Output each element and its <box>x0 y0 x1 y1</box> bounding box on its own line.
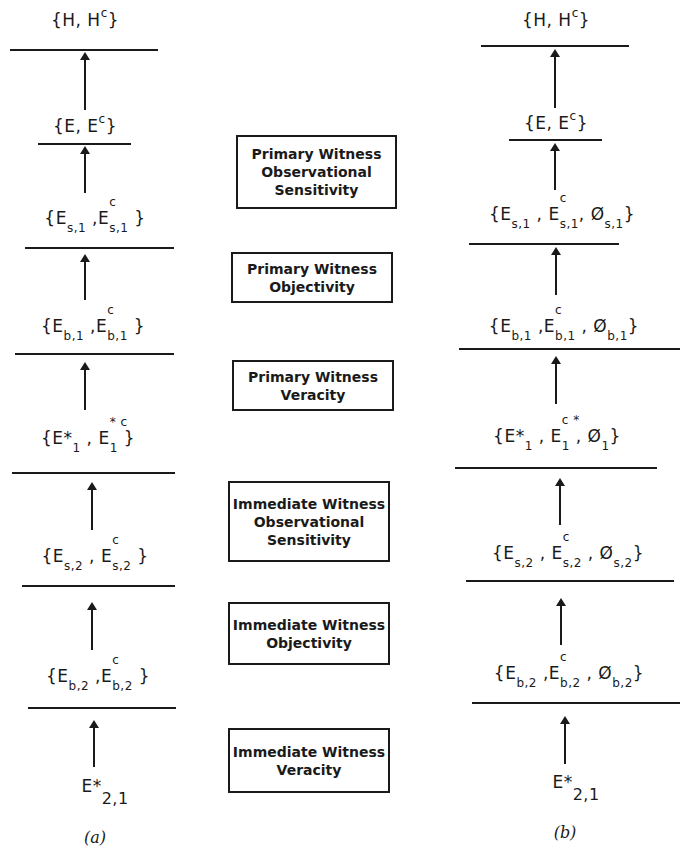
box-line: Observational <box>238 163 395 181</box>
node-text: ,E <box>532 316 555 336</box>
node-sub: 1 <box>110 442 118 454</box>
level-line <box>15 353 174 355</box>
node-root-b: E*2,1 <box>552 774 599 795</box>
node-text: , E <box>81 428 110 448</box>
node-sup: c <box>560 192 567 204</box>
box-primary-objectivity: Primary Witness Objectivity <box>231 252 393 303</box>
node-text: , Ø <box>582 543 614 563</box>
caption-b: (b) <box>554 823 577 842</box>
node-sub: s,2 <box>112 560 131 572</box>
sub-sup-stack: cs,2 <box>563 545 582 569</box>
level-line <box>509 139 602 141</box>
node-sub: s,2 <box>563 557 582 569</box>
node-text: , E <box>534 543 563 563</box>
box-line: Primary Witness <box>233 260 391 278</box>
node-text: { <box>492 543 503 563</box>
node-sensory-2-b: {Es,2 , Ecs,2 , Øs,2} <box>492 545 644 569</box>
node-sub: s,1 <box>605 217 624 231</box>
node-sub: b,2 <box>516 676 537 690</box>
node-sub: b,1 <box>555 330 576 342</box>
box-line: Veracity <box>234 386 392 404</box>
node-sub: b,2 <box>69 679 90 693</box>
node-text: {E, E <box>524 113 570 133</box>
node-sup: c <box>560 651 567 663</box>
node-text: , Ø <box>581 663 613 683</box>
sub-sup-stack: cb,2 <box>112 668 133 692</box>
node-text: { <box>41 546 52 566</box>
node-sub: 1 <box>525 439 533 453</box>
node-text: , E <box>83 546 112 566</box>
node-text: E <box>500 204 511 224</box>
node-text: } <box>118 428 135 448</box>
box-line: Sensitivity <box>230 531 388 549</box>
node-text: E <box>505 663 516 683</box>
node-sensory-1-b: {Es,1 , Ecs,1, Øs,1} <box>489 206 635 230</box>
node-hypothesis-b: {H, Hc} <box>522 12 590 29</box>
box-immediate-veracity: Immediate Witness Veracity <box>228 728 390 793</box>
node-text: } <box>628 316 639 336</box>
node-text: , E <box>531 204 560 224</box>
node-text: { <box>493 426 504 446</box>
node-text: } <box>577 113 588 133</box>
node-sub: 2,1 <box>102 789 129 808</box>
box-line: Objectivity <box>230 634 388 652</box>
node-sub: s,1 <box>511 217 530 231</box>
node-sub: 1 <box>562 440 570 452</box>
node-text: E* <box>52 428 72 448</box>
node-text: ,E <box>89 666 112 686</box>
node-text: ,E <box>84 316 107 336</box>
node-sup: c <box>563 531 570 543</box>
node-sensory-1-a: {Es,1 ,Ecs,1 } <box>44 210 145 234</box>
box-line: Observational <box>230 513 388 531</box>
arrow-up-icon <box>93 726 95 767</box>
box-line: Immediate Witness <box>230 495 388 513</box>
node-sub: 1 <box>73 441 81 455</box>
node-text: } <box>128 208 145 228</box>
node-hypothesis-a: {H, Hc} <box>51 12 119 29</box>
node-event-b: {E, Ec} <box>524 115 588 132</box>
node-text: } <box>131 546 148 566</box>
node-text: } <box>133 666 150 686</box>
node-testimony-1-a: {E*1 , E* c1 } <box>41 430 135 454</box>
node-text: E* <box>504 426 524 446</box>
node-text: E* <box>81 776 101 796</box>
node-sub: b,1 <box>107 330 128 342</box>
node-sub: 1 <box>601 439 609 453</box>
node-sub: b,1 <box>607 329 628 343</box>
node-root-a: E*2,1 <box>81 778 128 799</box>
sub-sup-stack: cb,1 <box>555 318 576 342</box>
node-text: { <box>494 663 505 683</box>
level-line <box>455 467 657 469</box>
node-text: { <box>44 208 55 228</box>
node-text: { <box>46 666 57 686</box>
node-sub: b,1 <box>64 329 85 343</box>
node-text: { <box>489 316 500 336</box>
node-text: E <box>53 546 64 566</box>
node-text: { <box>41 428 52 448</box>
node-text: , Ø <box>576 316 608 336</box>
node-belief-1-a: {Eb,1 ,Ecb,1 } <box>41 318 145 342</box>
box-primary-observational-sensitivity: Primary Witness Observational Sensitivit… <box>236 135 397 209</box>
box-line: Sensitivity <box>238 181 395 199</box>
arrow-up-icon <box>91 488 93 530</box>
node-text: E <box>52 316 63 336</box>
sub-sup-stack: c *1 <box>562 428 570 452</box>
node-belief-1-b: {Eb,1 ,Ecb,1 , Øb,1} <box>489 318 639 342</box>
node-text: E <box>500 316 511 336</box>
node-text: } <box>624 204 635 224</box>
node-sup: c <box>107 304 114 316</box>
node-sub: s,2 <box>614 556 633 570</box>
node-sup: c <box>101 6 108 20</box>
node-belief-2-a: {Eb,2 ,Ecb,2 } <box>46 668 150 692</box>
box-immediate-observational-sensitivity: Immediate Witness Observational Sensitiv… <box>228 481 390 562</box>
node-belief-2-b: {Eb,2 ,Ecb,2 , Øb,2} <box>494 665 644 689</box>
sub-sup-stack: cs,1 <box>109 210 128 234</box>
node-sub: s,2 <box>64 559 83 573</box>
node-sub: s,1 <box>67 221 86 235</box>
node-sub: b,2 <box>560 677 581 689</box>
box-line: Objectivity <box>233 278 391 296</box>
node-text: {E, E <box>53 116 99 136</box>
node-text: {H, H <box>522 10 572 30</box>
box-line: Immediate Witness <box>230 616 388 634</box>
node-text: ,E <box>86 208 109 228</box>
